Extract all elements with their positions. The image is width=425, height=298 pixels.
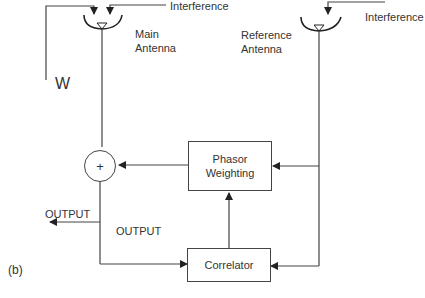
correlator-block: Correlator (187, 248, 271, 282)
output-mid-label: OUTPUT (116, 225, 161, 238)
main-antenna-label-line1: Main (135, 27, 176, 41)
phasor-weighting-label-line1: Phasor (206, 152, 255, 166)
main-antenna-label-line2: Antenna (135, 41, 176, 55)
summer-node: + (84, 150, 116, 182)
plus-symbol: + (96, 159, 104, 174)
reference-antenna-label: Reference Antenna (241, 28, 292, 56)
panel-label: (b) (8, 264, 23, 277)
main-antenna-dish (84, 15, 122, 29)
interference-reference-label: Interference (365, 11, 424, 24)
correlator-label: Correlator (205, 258, 254, 272)
reference-antenna-label-line2: Antenna (241, 42, 292, 56)
phasor-weighting-label-line2: Weighting (206, 166, 255, 180)
output-arrow-label: OUTPUT (45, 208, 90, 221)
interference-main-line (110, 5, 166, 14)
phasor-weighting-block: Phasor Weighting (188, 141, 272, 191)
reference-antenna-label-line1: Reference (241, 28, 292, 42)
main-antenna-label: Main Antenna (135, 27, 176, 55)
desired-signal-label: W (55, 75, 70, 93)
desired-signal-line (46, 6, 94, 80)
interference-main-label: Interference (170, 0, 229, 13)
